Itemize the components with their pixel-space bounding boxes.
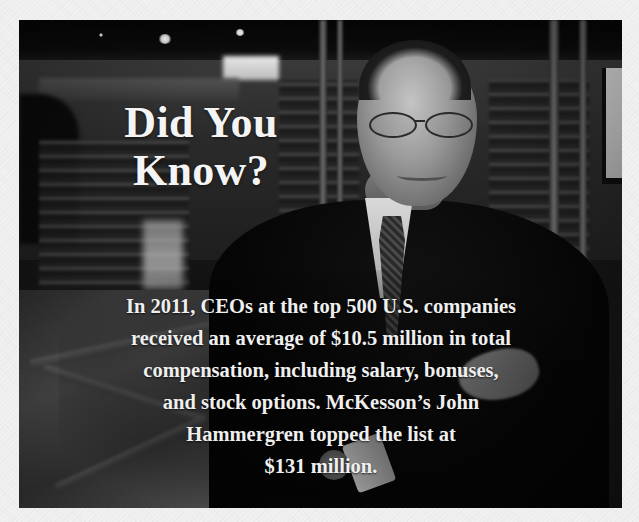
callout-body-line: $131 million.: [79, 450, 563, 482]
callout-body-line: received an average of $10.5 million in …: [79, 322, 563, 354]
callout-body-line: and stock options. McKesson’s John: [79, 386, 563, 418]
callout-body-line: compensation, including salary, bonuses,: [79, 354, 563, 386]
callout-title-line: Know?: [81, 147, 321, 195]
callout-title-line: Did You: [81, 99, 321, 147]
callout-body-line: Hammergren topped the list at: [79, 418, 563, 450]
callout-title: Did You Know?: [81, 99, 321, 195]
did-you-know-callout: Did You Know? In 2011, CEOs at the top 5…: [19, 20, 622, 508]
callout-body: In 2011, CEOs at the top 500 U.S. compan…: [79, 290, 563, 482]
callout-body-line: In 2011, CEOs at the top 500 U.S. compan…: [79, 290, 563, 322]
